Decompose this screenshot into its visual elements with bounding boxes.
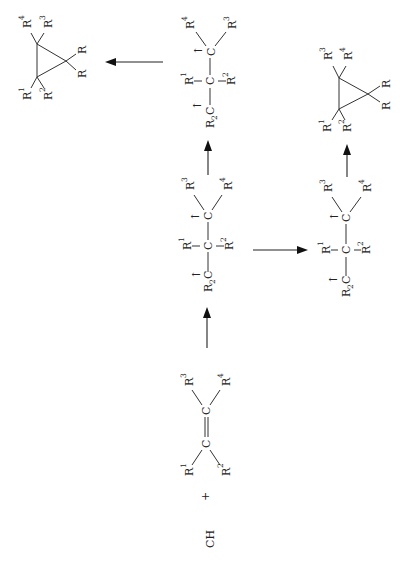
plus-sign: +	[199, 492, 212, 501]
carbene-label: CH	[204, 530, 217, 548]
alkene-c2: C	[200, 407, 213, 415]
intermediate-b: R2C ↑ C R1 R2 C ↑ R3 R4	[316, 179, 374, 297]
product-a-cyclopropane: R4 R3 R1 R2 R R	[17, 15, 89, 100]
svg-text:R: R	[76, 69, 89, 78]
svg-text:3: 3	[38, 15, 47, 20]
svg-text:4: 4	[357, 179, 366, 184]
svg-text:4: 4	[17, 15, 26, 20]
alkene-c1: C	[200, 440, 213, 448]
intermediate-a: R2C ↑ C R1 R2 C ↑ R3 R4	[177, 177, 236, 292]
svg-text:R: R	[380, 79, 393, 88]
arrow-alkene-to-intermediate-a	[203, 307, 211, 348]
svg-text:2: 2	[337, 119, 346, 124]
svg-text:3: 3	[179, 373, 188, 378]
svg-text:3: 3	[318, 47, 327, 52]
svg-text:2: 2	[219, 237, 228, 242]
product-b-cyclopropane: R3 R4 R1 R2 R R	[317, 47, 393, 132]
svg-text:C: C	[204, 77, 217, 85]
carbene-reagent: CH	[204, 530, 217, 548]
svg-text:R: R	[380, 101, 393, 110]
svg-text:3: 3	[222, 16, 231, 21]
svg-text:1: 1	[317, 119, 326, 124]
svg-text:1: 1	[17, 87, 26, 92]
arrow-intermediate-a-to-b	[253, 246, 308, 254]
svg-text:1: 1	[316, 241, 325, 246]
svg-text:C: C	[340, 246, 353, 254]
intermediate-c: R2C ↑ C R1 R2 C ↑ R4 R3	[179, 16, 239, 128]
spin-arrow: ↑	[327, 275, 340, 284]
spin-arrow: ↑	[190, 270, 203, 279]
svg-text:C: C	[340, 214, 353, 222]
spin-arrow: ↑	[189, 212, 202, 221]
svg-text:4: 4	[338, 47, 347, 52]
svg-text:4: 4	[180, 16, 189, 21]
svg-text:4: 4	[218, 177, 227, 182]
svg-text:3: 3	[180, 177, 189, 182]
arrow-intermediate-c-to-product-a	[105, 58, 163, 66]
svg-text:2: 2	[38, 87, 47, 92]
spin-arrow: ↑	[192, 46, 205, 55]
reaction-scheme: CH + C C R1 R2 R3 R4 R2C ↑ C R1 R2	[0, 0, 405, 563]
alkene: C C R1 R2 R3 R4	[179, 373, 233, 476]
arrow-intermediate-a-to-c	[204, 140, 212, 175]
svg-text:4: 4	[216, 373, 225, 378]
svg-text:3: 3	[318, 179, 327, 184]
svg-text:2: 2	[356, 241, 365, 246]
svg-text:2: 2	[221, 72, 230, 77]
svg-text:1: 1	[177, 237, 186, 242]
arrow-intermediate-b-to-product-b	[343, 144, 351, 177]
svg-text:C: C	[202, 212, 215, 220]
svg-text:1: 1	[179, 463, 188, 468]
spin-arrow: ↑	[328, 212, 341, 221]
svg-text:R: R	[76, 45, 89, 54]
spin-arrow: ↑	[191, 101, 204, 110]
svg-text:C: C	[202, 242, 215, 250]
svg-text:C: C	[340, 276, 353, 284]
svg-text:2: 2	[216, 463, 225, 468]
svg-text:C: C	[204, 107, 217, 115]
svg-text:1: 1	[179, 72, 188, 77]
svg-text:C: C	[205, 48, 218, 56]
